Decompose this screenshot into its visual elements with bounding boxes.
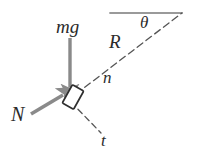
label-N: N bbox=[11, 104, 24, 124]
radial-line-R bbox=[76, 13, 182, 94]
block-body bbox=[62, 85, 84, 110]
diagram-canvas bbox=[0, 0, 197, 163]
normal-force-arrow-N bbox=[31, 95, 63, 114]
label-t: t bbox=[101, 132, 106, 149]
label-mg: mg bbox=[56, 17, 79, 36]
force-diagram: mg R θ n t N bbox=[0, 0, 197, 163]
label-R: R bbox=[109, 32, 121, 51]
label-theta: θ bbox=[140, 14, 148, 31]
label-n: n bbox=[103, 69, 112, 86]
